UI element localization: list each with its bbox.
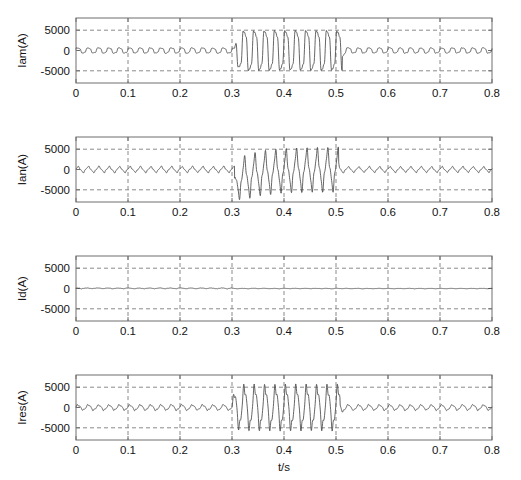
x-tick-label: 0.7 [432, 87, 448, 99]
x-tick-label: 0.4 [276, 87, 293, 99]
x-tick-label: 0.4 [276, 325, 293, 337]
y-axis-label: Ires(A) [16, 390, 28, 425]
signal-trace [76, 30, 492, 70]
x-tick-label: 0 [73, 206, 79, 218]
x-tick-label: 0.2 [172, 325, 188, 337]
x-tick-label: 0.8 [484, 206, 500, 218]
x-tick-label: 0.1 [120, 87, 136, 99]
x-tick-label: 0.3 [224, 444, 240, 456]
x-tick-label: 0.3 [224, 87, 240, 99]
x-tick-label: 0.7 [432, 444, 448, 456]
x-tick-label: 0.5 [328, 325, 344, 337]
x-tick-label: 0 [73, 444, 79, 456]
x-tick-label: 0.4 [276, 206, 293, 218]
y-tick-label: 0 [64, 45, 70, 57]
x-tick-label: 0.5 [328, 444, 344, 456]
y-tick-label: 0 [64, 402, 70, 414]
y-tick-label: 0 [64, 283, 70, 295]
subplot-iama: 00.10.20.30.40.50.60.70.8-500005000Iam(A… [16, 18, 500, 99]
chart-canvas: 00.10.20.30.40.50.60.70.8-500005000Iam(A… [0, 0, 521, 480]
y-tick-label: -5000 [41, 65, 70, 77]
y-axis-label: Id(A) [16, 276, 28, 301]
y-tick-label: -5000 [41, 422, 70, 434]
x-tick-label: 0.6 [380, 206, 396, 218]
y-tick-label: 5000 [44, 381, 70, 393]
x-tick-label: 0 [73, 325, 79, 337]
x-tick-label: 0.3 [224, 206, 240, 218]
x-tick-label: 0.8 [484, 444, 500, 456]
subplot-iresa: 00.10.20.30.40.50.60.70.8-500005000Ires(… [16, 375, 500, 473]
x-tick-label: 0.4 [276, 444, 293, 456]
x-axis-label: t/s [278, 461, 290, 473]
x-tick-label: 0.6 [380, 87, 396, 99]
x-tick-label: 0.5 [328, 87, 344, 99]
x-tick-label: 0.2 [172, 206, 188, 218]
x-tick-label: 0.5 [328, 206, 344, 218]
waveform-figure: 00.10.20.30.40.50.60.70.8-500005000Iam(A… [0, 0, 521, 480]
x-tick-label: 0.1 [120, 325, 136, 337]
x-tick-label: 0 [73, 87, 79, 99]
x-tick-label: 0.1 [120, 206, 136, 218]
y-tick-label: 5000 [44, 24, 70, 36]
x-tick-label: 0.6 [380, 325, 396, 337]
y-tick-label: -5000 [41, 184, 70, 196]
x-tick-label: 0.7 [432, 325, 448, 337]
x-tick-label: 0.3 [224, 325, 240, 337]
x-tick-label: 0.6 [380, 444, 396, 456]
subplot-iana: 00.10.20.30.40.50.60.70.8-500005000Ian(A… [16, 137, 500, 218]
subplot-ida: 00.10.20.30.40.50.60.70.8-500005000Id(A) [16, 256, 500, 337]
y-tick-label: 0 [64, 164, 70, 176]
y-axis-label: Ian(A) [16, 154, 28, 185]
x-tick-label: 0.1 [120, 444, 136, 456]
y-axis-label: Iam(A) [16, 33, 28, 68]
x-tick-label: 0.2 [172, 87, 188, 99]
y-tick-label: -5000 [41, 303, 70, 315]
x-tick-label: 0.7 [432, 206, 448, 218]
x-tick-label: 0.8 [484, 325, 500, 337]
signal-trace [76, 288, 492, 289]
x-tick-label: 0.2 [172, 444, 188, 456]
y-tick-label: 5000 [44, 262, 70, 274]
x-tick-label: 0.8 [484, 87, 500, 99]
y-tick-label: 5000 [44, 143, 70, 155]
